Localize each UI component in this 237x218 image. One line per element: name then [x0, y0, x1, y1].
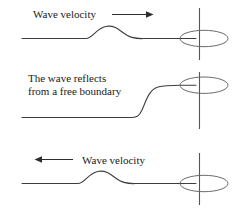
panel-incident-label: Wave velocity	[33, 8, 96, 20]
panel-reflected-label: Wave velocity	[82, 154, 145, 166]
wave-reflection-figure: Wave velocity The wave reflects from a f…	[0, 0, 237, 218]
free-boundary-incident	[180, 8, 228, 60]
arrow-right-icon	[112, 11, 154, 18]
panel-incident: Wave velocity	[22, 8, 228, 60]
arrow-left-icon	[35, 156, 74, 163]
panel-reflecting-label-line1: The wave reflects	[28, 72, 106, 84]
panel-reflecting: The wave reflects from a free boundary	[22, 72, 228, 129]
rope-reflected	[22, 171, 196, 184]
rope-incident	[22, 26, 196, 39]
free-boundary-reflected	[180, 153, 228, 205]
free-boundary-reflecting	[180, 72, 228, 129]
panel-reflecting-label-line2: from a free boundary	[28, 85, 122, 97]
figure-canvas: Wave velocity The wave reflects from a f…	[0, 0, 237, 218]
panel-reflected: Wave velocity	[22, 153, 228, 205]
